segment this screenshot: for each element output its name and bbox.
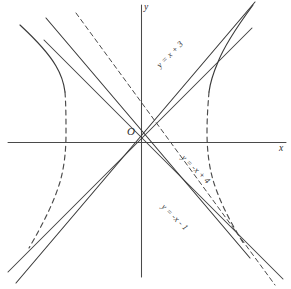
x-axis-label: x	[279, 144, 283, 154]
asymptote-ascending	[8, 28, 252, 272]
hyperbola-left-branch-dashed	[29, 92, 66, 248]
hyperbola-left-branch-solid	[20, 25, 65, 92]
figure-canvas	[0, 0, 291, 289]
asymptote-descending	[44, 40, 283, 279]
origin-label: O	[127, 126, 135, 137]
y-axis-label: y	[144, 3, 148, 13]
math-figure: y x O y = x + 3 y = -x + 4 y = -x - 1	[0, 0, 291, 289]
line-y-equals-minus-x-plus-4	[46, 18, 250, 258]
